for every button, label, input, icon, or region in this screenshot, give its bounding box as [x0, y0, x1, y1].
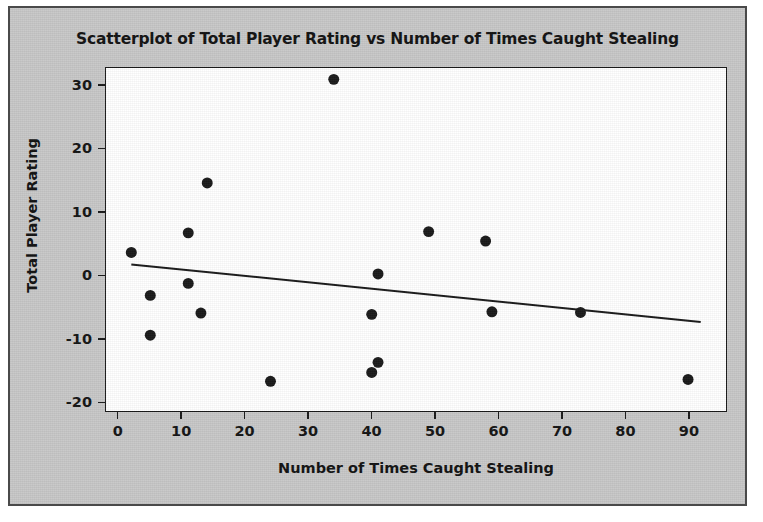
- plot-svg: [106, 68, 726, 411]
- x-tick-label: 90: [679, 423, 699, 439]
- y-tick-mark: [98, 148, 105, 150]
- x-tick-mark: [434, 412, 436, 419]
- data-point: [486, 306, 497, 317]
- x-tick-label: 80: [615, 423, 635, 439]
- y-tick-mark: [98, 275, 105, 277]
- x-tick-mark: [688, 412, 690, 419]
- x-tick-mark: [561, 412, 563, 419]
- y-axis-title: Total Player Rating: [24, 138, 40, 293]
- data-point: [366, 367, 377, 378]
- regression-line: [131, 264, 700, 321]
- data-point: [202, 177, 213, 188]
- x-tick-label: 50: [425, 423, 445, 439]
- data-point: [265, 376, 276, 387]
- x-tick-mark: [498, 412, 500, 419]
- chart-title: Scatterplot of Total Player Rating vs Nu…: [10, 30, 745, 48]
- y-tick-mark: [98, 84, 105, 86]
- y-tick-label: 10: [72, 204, 92, 220]
- data-point: [373, 268, 384, 279]
- data-point: [195, 308, 206, 319]
- x-tick-label: 0: [113, 423, 123, 439]
- y-tick-mark: [98, 211, 105, 213]
- data-point: [183, 227, 194, 238]
- x-tick-label: 60: [488, 423, 508, 439]
- y-tick-label: 20: [72, 140, 92, 156]
- x-tick-mark: [371, 412, 373, 419]
- fit-line: [131, 264, 700, 321]
- data-point: [575, 307, 586, 318]
- x-axis-title: Number of Times Caught Stealing: [105, 460, 727, 476]
- x-tick-label: 20: [235, 423, 255, 439]
- data-point: [183, 278, 194, 289]
- x-tick-mark: [117, 412, 119, 419]
- x-tick-mark: [180, 412, 182, 419]
- y-tick-mark: [98, 338, 105, 340]
- y-tick-label: 30: [72, 77, 92, 93]
- y-tick-label: -10: [66, 331, 92, 347]
- x-tick-mark: [307, 412, 309, 419]
- x-tick-label: 70: [552, 423, 572, 439]
- x-tick-label: 30: [298, 423, 318, 439]
- data-point: [366, 309, 377, 320]
- plot-area: [105, 67, 727, 412]
- data-point: [145, 330, 156, 341]
- data-point: [480, 236, 491, 247]
- y-tick-mark: [98, 402, 105, 404]
- x-tick-mark: [244, 412, 246, 419]
- x-tick-label: 40: [361, 423, 381, 439]
- data-point: [126, 247, 137, 258]
- x-tick-mark: [625, 412, 627, 419]
- data-point: [683, 374, 694, 385]
- data-points-group: [126, 74, 694, 387]
- data-point: [328, 74, 339, 85]
- figure-panel: Scatterplot of Total Player Rating vs Nu…: [8, 6, 747, 506]
- data-point: [423, 226, 434, 237]
- y-tick-label: 0: [82, 267, 92, 283]
- y-tick-label: -20: [66, 394, 92, 410]
- x-tick-label: 10: [171, 423, 191, 439]
- data-point: [373, 357, 384, 368]
- data-point: [145, 290, 156, 301]
